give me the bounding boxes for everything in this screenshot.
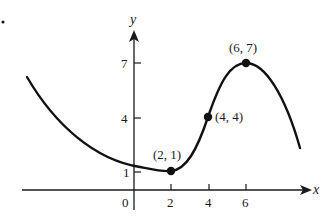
tick-x-4: 4	[205, 195, 212, 210]
point-inflection	[204, 113, 212, 121]
y-ticks	[134, 63, 141, 172]
tick-x-2: 2	[167, 195, 174, 210]
tick-y-7: 7	[121, 56, 128, 71]
tick-x-6: 6	[242, 195, 249, 210]
tick-y-4: 4	[121, 111, 128, 126]
point-max	[242, 59, 250, 67]
label-point-max: (6, 7)	[229, 40, 257, 55]
y-axis: y	[128, 12, 139, 210]
point-min	[167, 167, 175, 175]
y-axis-label: y	[128, 12, 137, 27]
tick-y-1: 1	[123, 165, 130, 180]
function-graph: x y 0 2 4 6 7 4 1 (2, 1) (4, 4) (6, 7)	[0, 0, 322, 216]
label-point-min: (2, 1)	[153, 147, 181, 162]
label-point-inflection: (4, 4)	[215, 109, 243, 124]
stray-dot	[1, 20, 4, 23]
tick-x-0: 0	[122, 195, 129, 210]
x-ticks	[171, 184, 246, 190]
x-axis-label: x	[312, 182, 320, 197]
